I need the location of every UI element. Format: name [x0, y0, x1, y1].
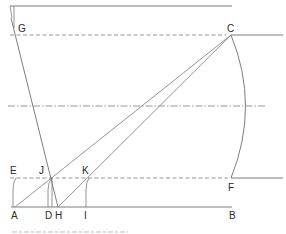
line-h-c [58, 35, 231, 207]
label-i: I [84, 210, 87, 221]
label-g: G [18, 23, 26, 34]
label-k: K [82, 165, 89, 176]
line-a-c [15, 35, 231, 207]
label-a: A [11, 210, 18, 221]
label-d: D [45, 210, 52, 221]
arc-d-j [48, 178, 52, 207]
arc-a-e [13, 178, 16, 207]
label-f: F [228, 182, 234, 193]
label-j: J [39, 165, 44, 176]
label-c: C [227, 23, 234, 34]
arc-i-k [86, 178, 89, 207]
top-left-corner-line [10, 6, 12, 18]
geometric-construction-diagram: G C E J K F A D H I B [0, 0, 286, 234]
arc-c-f [231, 35, 246, 178]
label-e: E [10, 165, 17, 176]
label-b: B [229, 210, 236, 221]
label-h: H [55, 210, 62, 221]
